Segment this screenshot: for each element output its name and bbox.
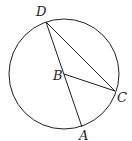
label-D: D [35,4,47,19]
label-B: B [52,68,63,83]
label-A: A [78,128,88,141]
segment-BC [64,74,115,91]
label-C: C [117,90,127,105]
geometry-diagram: D B C A [0,0,132,141]
